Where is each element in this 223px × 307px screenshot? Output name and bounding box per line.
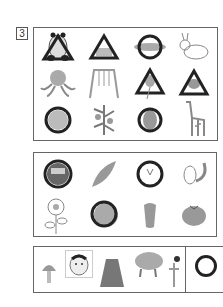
answer-divider	[185, 247, 186, 292]
owl-icon	[130, 103, 170, 137]
bear-icon	[84, 197, 124, 231]
section-1-box	[33, 27, 218, 141]
chestnut-icon	[130, 157, 170, 191]
item-bell-pepper	[130, 197, 170, 231]
item-daruma	[38, 157, 78, 191]
item-owl	[130, 103, 170, 137]
item-chipmunk	[174, 157, 214, 191]
item-balloon	[130, 66, 170, 100]
item-okame-mask	[65, 250, 93, 278]
item-hakama	[96, 257, 128, 289]
mushroom-icon	[38, 257, 60, 287]
bell-pepper-icon	[130, 197, 170, 231]
tomato-icon	[174, 197, 214, 231]
item-giraffe	[174, 98, 214, 138]
item-panda	[38, 30, 78, 64]
item-swing	[84, 66, 124, 100]
item-chestnut	[130, 157, 170, 191]
sandbox-icon	[84, 30, 124, 64]
sweet-potato-icon	[84, 157, 124, 191]
swing-icon	[84, 66, 124, 100]
fish-icon	[130, 30, 170, 64]
daruma-icon	[38, 157, 78, 191]
rabbit-icon	[174, 30, 214, 64]
item-rabbit	[174, 30, 214, 64]
flower-plant-icon	[84, 103, 124, 137]
kendama-icon	[165, 255, 183, 289]
item-sunflower	[38, 197, 78, 235]
item-tomato	[174, 197, 214, 231]
section-2-box	[33, 152, 217, 237]
item-mushroom	[38, 257, 60, 287]
item-octopus	[38, 66, 78, 100]
item-sweet-potato	[84, 157, 124, 191]
item-bear	[84, 197, 124, 231]
octopus-icon	[38, 66, 78, 100]
item-hippo	[38, 103, 78, 137]
sunflower-icon	[38, 197, 78, 235]
giraffe-icon	[174, 98, 214, 138]
balloon-icon	[130, 66, 170, 100]
okame-mask-icon	[66, 251, 92, 277]
squirrel-icon	[174, 66, 214, 100]
item-kendama	[165, 255, 183, 289]
section-3-box	[33, 246, 223, 293]
question-number: 3	[16, 27, 28, 40]
item-squirrel	[174, 66, 214, 100]
item-flower-plant	[84, 103, 124, 137]
chipmunk-icon	[174, 157, 214, 191]
answer-circle-mark-icon	[195, 255, 217, 277]
hakama-icon	[96, 257, 128, 289]
boar-icon	[131, 249, 165, 279]
item-boar	[131, 249, 165, 279]
hippo-icon	[38, 103, 78, 137]
panda-icon	[38, 30, 78, 64]
item-fish	[130, 30, 170, 64]
item-sandbox	[84, 30, 124, 64]
